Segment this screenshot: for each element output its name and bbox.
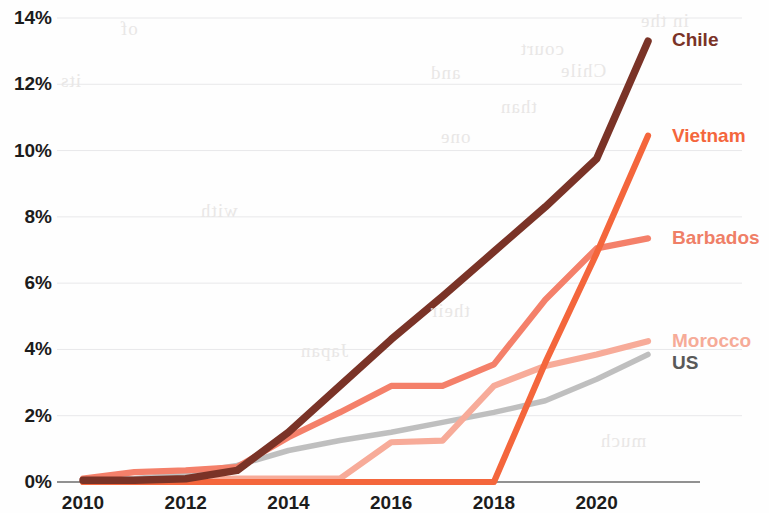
series-label-us: US [672,353,698,372]
y-axis-tick-label: 2% [25,406,52,425]
line-chart: in the court and Chile than one of its w… [0,0,769,513]
x-axis-tick-label: 2020 [575,492,617,513]
y-axis-tick-label: 4% [25,339,52,358]
plot-area [0,0,769,513]
x-axis-tick-label: 2016 [370,492,412,513]
series-label-chile: Chile [672,30,718,49]
y-axis-tick-label: 0% [25,472,52,491]
y-axis-tick-label: 10% [14,141,52,160]
series-label-morocco: Morocco [672,331,751,350]
y-axis-tick-label: 8% [25,207,52,226]
series-line-chile [83,41,648,480]
y-axis-tick-label: 12% [14,74,52,93]
x-axis-tick-label: 2012 [165,492,207,513]
series-label-vietnam: Vietnam [672,126,746,145]
x-axis-tick-label: 2014 [267,492,309,513]
series-label-barbados: Barbados [672,228,760,247]
x-axis-tick-label: 2010 [62,492,104,513]
y-axis-tick-label: 6% [25,273,52,292]
x-axis-tick-label: 2018 [473,492,515,513]
y-axis-tick-label: 14% [14,8,52,27]
